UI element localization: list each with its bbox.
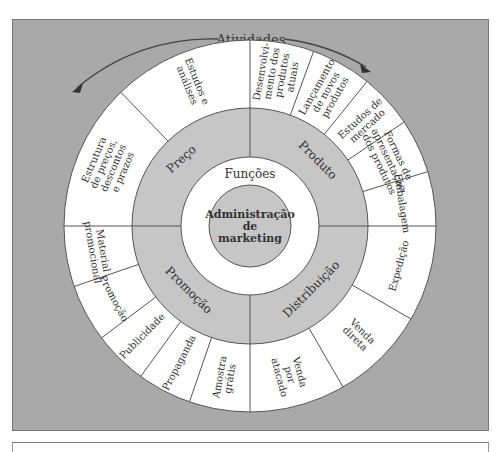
functions-label: Funções [225,167,276,181]
arrow-left-icon [72,83,83,93]
arrow-right-icon [360,64,371,73]
svg-text:marketing: marketing [218,232,282,245]
